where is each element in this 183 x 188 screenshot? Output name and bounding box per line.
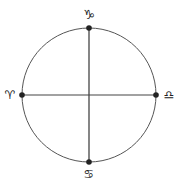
capricorn-point	[86, 25, 92, 31]
cancer-point	[86, 159, 92, 165]
capricorn-icon: ♑	[83, 7, 95, 22]
aries-icon: ♈	[5, 88, 16, 102]
aries-point	[19, 92, 25, 98]
zodiac-circle-diagram: ♑ ♈ ♎ ♋	[0, 0, 183, 188]
cancer-icon: ♋	[84, 167, 95, 181]
libra-icon: ♎	[164, 88, 175, 102]
libra-point	[153, 92, 159, 98]
